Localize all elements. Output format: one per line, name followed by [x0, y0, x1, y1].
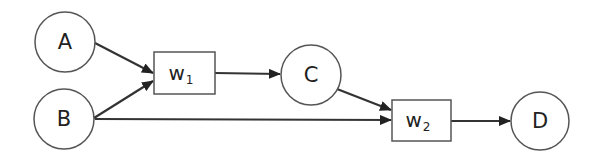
node-c-label: C	[304, 63, 319, 87]
node-b-label: B	[57, 107, 71, 131]
box-w1-label-main: w	[169, 61, 185, 85]
node-b: B	[34, 89, 94, 149]
box-w1-subscript: 1	[186, 73, 194, 87]
edge-b-to-w1	[94, 81, 153, 118]
edge-a-to-w1	[95, 43, 153, 73]
node-d: D	[511, 92, 569, 150]
edge-c-to-w2	[337, 89, 391, 110]
node-d-label: D	[532, 109, 548, 133]
node-a-label: A	[58, 30, 73, 54]
box-w2: w2	[392, 100, 451, 141]
box-w2-subscript: 2	[423, 120, 431, 134]
node-c: C	[281, 45, 341, 105]
edge-b-to-w2	[95, 119, 391, 120]
box-w1: w1	[154, 52, 215, 94]
node-a: A	[35, 12, 95, 72]
edge-w1-to-c	[215, 73, 280, 74]
diagram-canvas: A B C D w1 w2	[0, 0, 603, 160]
box-w2-label-main: w	[406, 108, 422, 132]
